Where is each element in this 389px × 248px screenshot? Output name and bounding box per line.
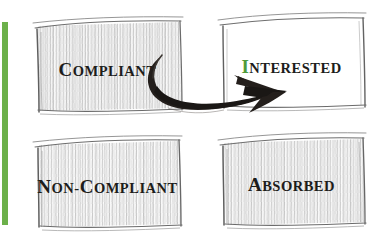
quadrant-interested[interactable]: INTERESTED [214,10,369,115]
quadrant-absorbed[interactable]: ABSORBED [214,130,369,232]
label-rest-letters: OMPLIANT [73,63,157,79]
diagram-canvas: COMPLIANT INTERESTED [0,0,389,248]
quadrant-label-non-compliant: NON-COMPLIANT [30,177,185,196]
label-lead-letter-2: C [80,176,94,197]
label-lead-letter: N [37,176,51,197]
label-rest-letters: BSORBED [262,178,335,194]
quadrant-compliant[interactable]: COMPLIANT [30,12,185,117]
quadrant-label-compliant: COMPLIANT [30,60,185,79]
label-rest-letters: NTERESTED [249,60,341,76]
left-green-accent-bar [2,22,8,225]
label-rest-letters-2: OMPLIANT [94,180,178,196]
quadrant-label-absorbed: ABSORBED [214,175,369,194]
label-lead-letter: A [248,174,262,195]
label-lead-letter: C [59,59,73,80]
quadrant-non-compliant[interactable]: NON-COMPLIANT [30,132,185,234]
label-rest-letters: ON- [52,180,80,196]
quadrant-label-interested: INTERESTED [214,57,369,76]
